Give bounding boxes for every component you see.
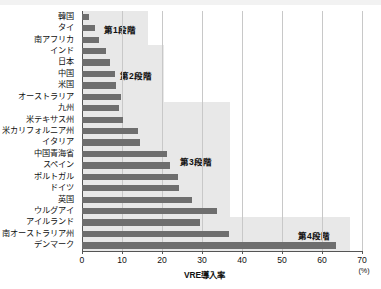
bar-row [82,219,362,225]
category-label: ウルグアイ [34,207,74,215]
x-tick [362,251,363,254]
bar-row [82,185,362,191]
bar [82,208,217,214]
bar-row [82,25,362,31]
x-axis-title-text: VRE導入率 [184,270,225,280]
x-tick-label: 50 [277,255,287,265]
bar-row [82,117,362,123]
category-label: 米カリフォルニア州 [2,127,74,135]
bar [82,128,138,134]
bar-row [82,82,362,88]
category-label: スペイン [43,161,74,169]
bar [82,25,95,31]
x-tick-label: 20 [157,255,167,265]
category-label: インド [50,47,74,55]
bar [82,197,192,203]
x-tick [242,251,243,254]
bar [82,242,336,248]
bar [82,71,115,77]
bar [82,139,140,145]
category-label: 中国青海省 [34,150,74,158]
bar-row [82,128,362,134]
category-label: 中国 [58,70,74,78]
x-tick-label: 40 [237,255,247,265]
x-tick [82,251,83,254]
bar-row [82,14,362,20]
bar [82,37,99,43]
bar-row [82,105,362,111]
category-label: ポルトガル [34,173,74,181]
x-tick-label: 10 [117,255,127,265]
category-label: イタリア [42,138,74,146]
bar [82,94,121,100]
category-label: タイ [58,24,74,32]
x-axis-title: VRE導入率 [0,268,381,280]
bar [82,82,116,88]
bar [82,14,89,20]
x-tick-label: 30 [197,255,207,265]
bar [82,185,179,191]
x-tick [122,251,123,254]
x-axis-line [82,251,362,252]
bar-row [82,59,362,65]
x-tick [202,251,203,254]
bar [82,162,170,168]
bar-row [82,94,362,100]
x-tick [322,251,323,254]
category-label: 日本 [58,58,74,66]
bar-row [82,197,362,203]
bar-row [82,37,362,43]
bar-row [82,231,362,237]
category-label: アイルランド [26,218,74,226]
bar [82,219,200,225]
x-tick [162,251,163,254]
category-label: 韓国 [58,13,74,21]
chart-root: 韓国タイ南アフリカインド日本中国米国オーストラリア九州米テキサス州米カリフォルニ… [0,0,381,289]
bar [82,105,119,111]
category-label: 九州 [58,104,74,112]
bar-row [82,208,362,214]
category-label: ドイツ [50,184,74,192]
category-label: デンマーク [34,241,74,249]
bar [82,151,167,157]
bar-row [82,151,362,157]
top-margin-strip [0,0,381,5]
x-tick-label: 70 [357,255,367,265]
bar-row [82,139,362,145]
bar [82,117,123,123]
gridline [362,11,363,251]
bar [82,59,110,65]
category-label: オーストラリア [18,93,74,101]
x-tick [282,251,283,254]
category-label: 南オーストラリア州 [2,230,74,238]
category-label: 南アフリカ [34,35,74,43]
x-tick-label: 60 [317,255,327,265]
plot-area: 第1段階第2段階第3段階第4段階 [82,11,362,251]
category-label: 米国 [58,81,74,89]
bar [82,231,229,237]
bar [82,174,178,180]
category-label: 米テキサス州 [26,115,74,123]
x-tick-label: 0 [80,255,85,265]
bar-row [82,174,362,180]
bar-row [82,242,362,248]
bar-row [82,162,362,168]
bar [82,48,106,54]
bar-row [82,48,362,54]
bar-row [82,71,362,77]
category-label: 英国 [58,195,74,203]
